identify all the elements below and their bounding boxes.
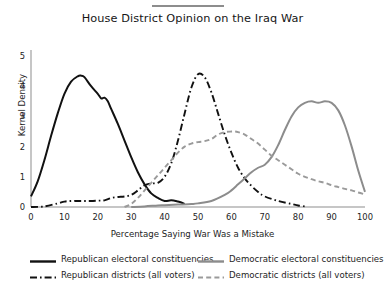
series-line-1 [31,73,305,207]
legend-label-3: Democratic districts (all voters) [229,270,365,280]
data-curves [31,73,365,207]
legend-label-0: Republican electoral constituencies [61,254,214,264]
series-line-2 [131,101,365,207]
series-line-0 [31,76,185,204]
legend-swatch-1 [198,260,224,263]
legend-swatch-2 [30,276,56,279]
legend-label-2: Republican districts (all voters) [61,270,195,280]
legend-label-1: Democratic electoral constituencies [229,254,384,264]
chart-legend: Republican electoral constituenciesDemoc… [0,250,385,290]
chart-figure: House District Opinion on the Iraq War K… [0,0,385,290]
legend-swatch-3 [198,276,224,279]
series-line-3 [125,131,365,207]
plot-area [0,0,385,290]
legend-swatch-0 [30,260,56,263]
